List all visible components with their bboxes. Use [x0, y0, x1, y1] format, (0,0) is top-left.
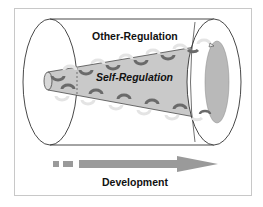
other-regulation-label: Other-Regulation	[92, 30, 178, 42]
arrow-dash-2	[63, 161, 73, 167]
arrow-dash-1	[53, 161, 59, 167]
development-arrow	[53, 156, 218, 172]
development-label: Development	[102, 176, 168, 188]
arrow-shaft-head	[79, 156, 218, 172]
cone-left-end	[44, 72, 52, 90]
self-regulation-label: Self-Regulation	[96, 71, 173, 83]
